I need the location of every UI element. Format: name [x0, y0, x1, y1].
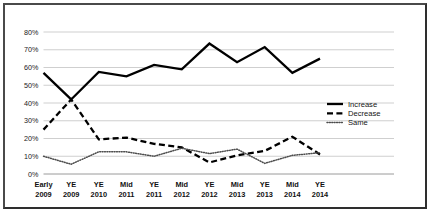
- x-label-line: 2012: [174, 190, 190, 199]
- y-tick-label-50%: 50%: [24, 81, 39, 90]
- legend-label-decrease: Decrease: [348, 109, 381, 118]
- legend-item-increase: Increase: [327, 100, 377, 109]
- x-label-line: 2012: [201, 190, 217, 199]
- x-label-line: 2010: [91, 190, 107, 199]
- x-label-line: YE: [94, 180, 104, 189]
- x-category-mid-2014: Mid2014: [284, 180, 301, 200]
- x-label-line: Early: [34, 180, 53, 189]
- x-label-line: Mid: [120, 180, 133, 189]
- x-label-line: YE: [260, 180, 270, 189]
- x-label-line: 2013: [256, 190, 272, 199]
- y-tick-label-10%: 10%: [24, 152, 39, 161]
- legend-item-decrease: Decrease: [327, 109, 381, 118]
- x-label-line: 2011: [118, 190, 134, 199]
- x-label-line: YE: [149, 180, 159, 189]
- series-line-increase: [44, 44, 321, 100]
- x-label-line: Mid: [231, 180, 244, 189]
- x-category-mid-2013: Mid2013: [229, 180, 245, 200]
- x-label-line: 2009: [63, 190, 79, 199]
- x-category-ye-2011: YE2011: [146, 180, 162, 200]
- x-category-ye-2010: YE2010: [91, 180, 107, 200]
- x-label-line: 2011: [146, 190, 162, 199]
- x-category-ye-2012: YE2012: [201, 180, 217, 200]
- x-label-line: 2014: [312, 190, 329, 199]
- y-tick-label-20%: 20%: [24, 134, 39, 143]
- chart-frame: 0%10%20%30%40%50%60%70%80% Early2009YE20…: [3, 3, 427, 209]
- y-tick-label-30%: 30%: [24, 116, 39, 125]
- y-tick-label-80%: 80%: [24, 28, 39, 37]
- legend-item-same: Same: [327, 118, 368, 127]
- x-axis-category-labels: Early2009YE2009YE2010Mid2011YE2011Mid201…: [34, 180, 329, 200]
- x-label-line: YE: [315, 180, 325, 189]
- x-label-line: Mid: [286, 180, 299, 189]
- x-category-mid-2012: Mid2012: [174, 180, 190, 200]
- y-axis-tick-labels: 0%10%20%30%40%50%60%70%80%: [24, 28, 39, 179]
- series-line-decrease: [44, 99, 321, 162]
- x-label-line: 2009: [35, 190, 51, 199]
- x-category-ye-2013: YE2013: [256, 180, 272, 200]
- x-label-line: 2014: [284, 190, 301, 199]
- y-tick-label-70%: 70%: [24, 45, 39, 54]
- x-category-early-2009: Early2009: [34, 180, 53, 200]
- line-chart: 0%10%20%30%40%50%60%70%80% Early2009YE20…: [5, 5, 425, 207]
- y-tick-label-60%: 60%: [24, 63, 39, 72]
- x-category-ye-2009: YE2009: [63, 180, 79, 200]
- series-paths: [44, 44, 321, 165]
- x-label-line: Mid: [175, 180, 188, 189]
- y-tick-label-40%: 40%: [24, 99, 39, 108]
- legend-label-same: Same: [348, 118, 368, 127]
- chart-legend: IncreaseDecreaseSame: [327, 100, 381, 128]
- x-label-line: YE: [66, 180, 76, 189]
- y-tick-label-0%: 0%: [28, 170, 39, 179]
- x-category-ye-2014: YE2014: [312, 180, 329, 200]
- x-label-line: 2013: [229, 190, 245, 199]
- x-category-mid-2011: Mid2011: [118, 180, 134, 200]
- legend-label-increase: Increase: [348, 100, 377, 109]
- x-label-line: YE: [204, 180, 214, 189]
